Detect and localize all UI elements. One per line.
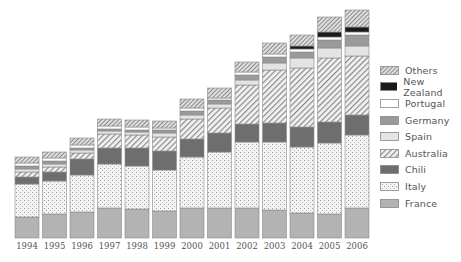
legend-swatch (380, 99, 399, 108)
segment-australia (15, 172, 39, 177)
segment-others (98, 119, 122, 126)
segment-germany (345, 35, 369, 46)
x-tick-label: 2003 (260, 241, 290, 251)
segment-others (318, 17, 342, 32)
segment-australia (345, 56, 369, 115)
segment-italy (290, 147, 314, 213)
segment-australia (43, 167, 67, 172)
segment-portugal (43, 158, 67, 161)
legend-swatch (380, 149, 399, 158)
segment-france (153, 211, 177, 238)
x-tick-label: 2005 (315, 241, 345, 251)
segment-portugal (290, 49, 314, 52)
segment-spain (263, 63, 287, 70)
legend-swatch (380, 82, 397, 91)
legend-swatch (380, 132, 399, 141)
segment-chili (43, 172, 67, 181)
segment-spain (235, 80, 259, 85)
bars-group (15, 10, 369, 238)
segment-others (70, 138, 94, 145)
x-tick-label: 1997 (95, 241, 125, 251)
segment-others (263, 43, 287, 54)
segment-chili (15, 177, 39, 184)
segment-others (15, 157, 39, 163)
x-tick-label: 2000 (177, 241, 207, 251)
bar-2006 (345, 10, 369, 238)
x-tick-label: 1994 (12, 241, 42, 251)
bar-2005 (318, 17, 342, 238)
segment-france (290, 213, 314, 238)
legend-label: Australia (405, 148, 448, 159)
legend-item-germany: Germany (380, 112, 461, 129)
segment-chili (153, 151, 177, 170)
segment-germany (318, 40, 342, 48)
bar-2000 (180, 99, 204, 238)
segment-france (318, 214, 342, 238)
legend-swatch (380, 182, 399, 191)
segment-germany (263, 57, 287, 63)
segment-france (98, 208, 122, 238)
segment-australia (98, 134, 122, 148)
segment-germany (125, 130, 149, 132)
segment-spain (70, 150, 94, 153)
bar-1997 (98, 119, 122, 238)
segment-others (43, 152, 67, 158)
legend: OthersNew ZealandPortugalGermanySpainAus… (380, 62, 461, 211)
segment-germany (70, 148, 94, 150)
segment-others (290, 35, 314, 46)
segment-germany (290, 52, 314, 58)
legend-item-portugal: Portugal (380, 95, 461, 112)
segment-germany (98, 129, 122, 131)
bar-2003 (263, 43, 287, 238)
legend-label: Chili (405, 164, 426, 175)
legend-label: Germany (405, 115, 449, 126)
segment-portugal (180, 108, 204, 111)
segment-chili (235, 124, 259, 142)
bar-1995 (43, 152, 67, 238)
bar-1998 (125, 120, 149, 238)
segment-portugal (15, 163, 39, 166)
legend-item-spain: Spain (380, 128, 461, 145)
segment-australia (180, 119, 204, 139)
segment-others (208, 88, 232, 98)
segment-chili (263, 123, 287, 142)
segment-australia (290, 68, 314, 127)
legend-item-france: France (380, 195, 461, 212)
segment-others (153, 121, 177, 128)
segment-france (180, 208, 204, 238)
segment-italy (345, 135, 369, 208)
x-tick-label: 2004 (287, 241, 317, 251)
segment-portugal (235, 72, 259, 75)
segment-spain (15, 169, 39, 172)
legend-label: Italy (405, 181, 426, 192)
segment-australia (235, 85, 259, 124)
segment-new-zealand (345, 27, 369, 32)
segment-chili (345, 115, 369, 135)
legend-item-chili: Chili (380, 162, 461, 179)
segment-australia (70, 153, 94, 159)
legend-item-italy: Italy (380, 178, 461, 195)
segment-france (70, 212, 94, 238)
segment-spain (125, 132, 149, 135)
segment-spain (345, 46, 369, 56)
segment-italy (98, 164, 122, 208)
segment-portugal (125, 127, 149, 130)
bar-1994 (15, 157, 39, 238)
x-tick-label: 1999 (150, 241, 180, 251)
segment-france (345, 208, 369, 238)
segment-france (15, 217, 39, 238)
x-tick-label: 1996 (67, 241, 97, 251)
segment-others (125, 120, 149, 127)
legend-swatch (380, 66, 399, 75)
segment-spain (290, 58, 314, 68)
bar-2001 (208, 88, 232, 238)
segment-chili (125, 148, 149, 166)
segment-portugal (318, 37, 342, 40)
segment-chili (208, 133, 232, 152)
legend-label: Spain (405, 131, 432, 142)
bar-2004 (290, 35, 314, 238)
x-tick-label: 2002 (232, 241, 262, 251)
segment-italy (43, 181, 67, 214)
segment-france (235, 208, 259, 238)
bar-1996 (70, 138, 94, 238)
